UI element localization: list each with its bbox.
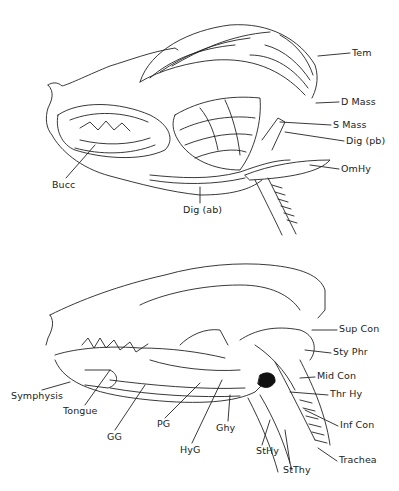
label-s-mass: S Mass xyxy=(333,120,367,130)
buccinator-muscle xyxy=(57,104,170,157)
label-thr-hy: Thr Hy xyxy=(330,389,362,399)
masseter-muscle xyxy=(173,97,260,170)
anatomy-illustration xyxy=(0,0,399,491)
label-mid-con: Mid Con xyxy=(317,371,356,381)
pharyngeal-region xyxy=(240,328,330,472)
label-tem: Tem xyxy=(352,48,372,58)
label-trachea: Trachea xyxy=(339,455,377,465)
label-sup-con: Sup Con xyxy=(339,324,379,334)
bottom-skull-outline xyxy=(46,264,325,345)
label-dig-pb: Dig (pb) xyxy=(346,136,385,146)
label-dig-ab: Dig (ab) xyxy=(183,205,222,215)
label-d-mass: D Mass xyxy=(341,97,376,107)
label-pg: PG xyxy=(157,419,170,429)
top-skull-outline xyxy=(46,48,262,195)
label-sty-phr: Sty Phr xyxy=(333,347,368,357)
label-gg: GG xyxy=(107,432,122,442)
label-tongue: Tongue xyxy=(63,406,98,416)
label-inf-con: Inf Con xyxy=(340,420,374,430)
temporalis-muscle xyxy=(140,25,317,98)
label-omhy: OmHy xyxy=(341,164,371,174)
label-ghy: Ghy xyxy=(216,423,235,433)
label-stthy: StThy xyxy=(283,465,311,475)
label-hyg: HyG xyxy=(180,445,200,455)
label-symphysis: Symphysis xyxy=(11,391,63,401)
label-sthy: StHy xyxy=(256,446,279,456)
mandible-and-tongue xyxy=(55,338,262,402)
digastric-and-omohyoid xyxy=(150,118,330,235)
label-bucc: Bucc xyxy=(52,180,75,190)
